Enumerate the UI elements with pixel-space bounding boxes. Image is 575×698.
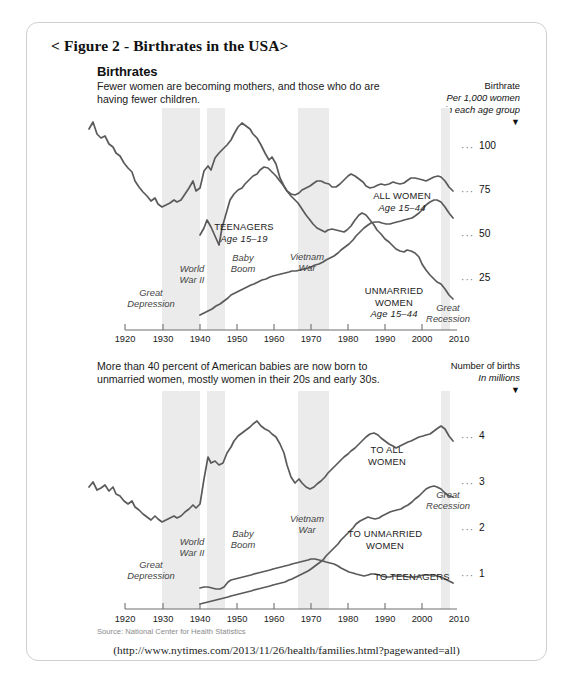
top-chart-heading: Birthrates (97, 64, 157, 79)
top-xtick-1950: 1950 (217, 334, 257, 344)
bottom-xtick-1990: 1990 (365, 614, 405, 624)
top-xtick-2010: 2010 (439, 334, 479, 344)
top-xtick-2000: 2000 (402, 334, 442, 344)
top-chart-subtitle: Fewer women are becoming mothers, and th… (97, 80, 397, 107)
top-ytick-label-100: 100 (479, 140, 496, 151)
top-ytick-label-25: 25 (479, 272, 490, 283)
bottom-xtick-2000: 2000 (402, 614, 442, 624)
figure-title: < Figure 2 - Birthrates in the USA> (51, 37, 288, 55)
bottom-axis-caption-line2: In millions (390, 372, 520, 384)
chart-source-note: Source: National Center for Health Stati… (97, 627, 246, 636)
bottom-annotation-world-war-ii: World War II (166, 536, 218, 559)
bottom-series-label-teenagers: TO TEENAGERS (357, 571, 467, 583)
bottom-ytick-leader-2: ··· (461, 524, 474, 535)
top-series-label-teenagers: TEENAGERS Age 15–19 (199, 221, 289, 244)
bottom-series-label-unmarried-women: TO UNMARRIED WOMEN (329, 528, 441, 551)
bottom-ytick-label-3: 3 (479, 476, 485, 487)
top-xtick-1930: 1930 (143, 334, 183, 344)
top-ytick-label-75: 75 (479, 184, 490, 195)
bottom-xtick-1980: 1980 (328, 614, 368, 624)
bottom-ytick-label-1: 1 (479, 568, 485, 579)
bottom-xtick-1970: 1970 (291, 614, 331, 624)
bottom-series-all-women (89, 421, 453, 522)
bottom-xtick-1920: 1920 (105, 614, 145, 624)
bottom-ytick-label-2: 2 (479, 522, 485, 533)
bottom-xtick-1940: 1940 (180, 614, 220, 624)
bottom-annotation-great-recession: Great Recession (417, 489, 479, 512)
top-xtick-1980: 1980 (328, 334, 368, 344)
top-annotation-great-depression: Great Depression (113, 287, 189, 310)
bottom-xtick-1960: 1960 (254, 614, 294, 624)
top-ytick-leader-75: ··· (461, 186, 474, 197)
top-xtick-1970: 1970 (291, 334, 331, 344)
bottom-xtick-1930: 1930 (143, 614, 183, 624)
top-series-label-unmarried-women: UNMARRIED WOMEN Age 15–44 (347, 285, 441, 320)
top-axis-caption-line1: Birthrate (390, 80, 520, 92)
top-xtick-1960: 1960 (254, 334, 294, 344)
bottom-annotation-great-depression: Great Depression (113, 559, 189, 582)
bottom-series-label-all-women: TO ALL WOMEN (349, 444, 425, 467)
bottom-annotation-baby-boom: Baby Boom (217, 528, 269, 551)
top-axis-caption-line2: Per 1,000 women (390, 92, 520, 104)
figure-url-caption: (http://www.nytimes.com/2013/11/26/healt… (27, 644, 546, 656)
top-xtick-1990: 1990 (365, 334, 405, 344)
bottom-axis-caption-line1: Number of births (390, 360, 520, 372)
bottom-ytick-leader-4: ··· (461, 432, 474, 443)
top-xtick-1920: 1920 (105, 334, 145, 344)
top-ytick-label-50: 50 (479, 228, 490, 239)
bottom-annotation-vietnam-war: Vietnam War (278, 513, 336, 536)
bottom-xtick-1950: 1950 (217, 614, 257, 624)
top-annotation-vietnam-war: Vietnam War (278, 251, 336, 274)
page-footer-sliver (26, 689, 526, 696)
bottom-ytick-leader-3: ··· (461, 478, 474, 489)
bottom-chart-svg (67, 391, 457, 621)
bottom-ytick-label-4: 4 (479, 430, 485, 441)
bottom-xtick-2010: 2010 (439, 614, 479, 624)
top-ytick-leader-25: ··· (461, 274, 474, 285)
top-xtick-1940: 1940 (180, 334, 220, 344)
top-ytick-leader-100: ··· (461, 142, 474, 153)
figure-card: < Figure 2 - Birthrates in the USA> Birt… (26, 22, 547, 661)
top-series-label-all-women: ALL WOMEN Age 15–44 (357, 190, 447, 213)
bottom-chart-plot (67, 391, 457, 621)
bottom-chart-subtitle: More than 40 percent of American babies … (97, 360, 392, 387)
top-ytick-leader-50: ··· (461, 230, 474, 241)
top-annotation-world-war-ii: World War II (166, 263, 218, 286)
top-annotation-baby-boom: Baby Boom (217, 252, 269, 275)
